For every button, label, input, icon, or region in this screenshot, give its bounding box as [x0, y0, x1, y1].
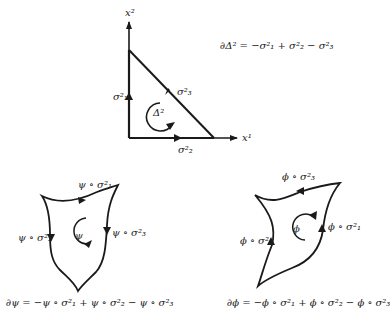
simplex-center-label: Δ² — [153, 108, 164, 118]
simplex-boundary-equation: ∂Δ² = −σ²₁ + σ²₂ − σ²₃ — [220, 41, 334, 51]
phi-right-label: ϕ ∘ σ²₁ — [328, 222, 361, 232]
x2-axis-label: x² — [125, 8, 135, 18]
phi-left-label: ϕ ∘ σ²₂ — [240, 236, 273, 246]
edge-sigma2-label: σ²₂ — [178, 145, 193, 155]
edge-sigma1-label: σ²₁ — [113, 92, 128, 102]
psi-boundary-equation: ∂ψ = −ψ ∘ σ²₁ + ψ ∘ σ²₂ − ψ ∘ σ²₃ — [6, 298, 173, 308]
phi-boundary-equation: ∂ϕ = −ϕ ∘ σ²₁ + ϕ ∘ σ²₂ − ϕ ∘ σ²₃ — [227, 298, 390, 308]
psi-top-label: ψ ∘ σ²₁ — [78, 180, 112, 190]
x1-axis-label: x¹ — [242, 133, 252, 143]
psi-center-label: ψ — [75, 231, 83, 241]
psi-left-label: ψ ∘ σ²₂ — [18, 233, 52, 243]
edge-sigma3-label: σ²₃ — [177, 87, 192, 97]
phi-center-label: ϕ — [293, 224, 300, 234]
phi-top-label: ϕ ∘ σ²₃ — [282, 172, 315, 182]
psi-right-label: ψ ∘ σ²₃ — [112, 228, 146, 238]
